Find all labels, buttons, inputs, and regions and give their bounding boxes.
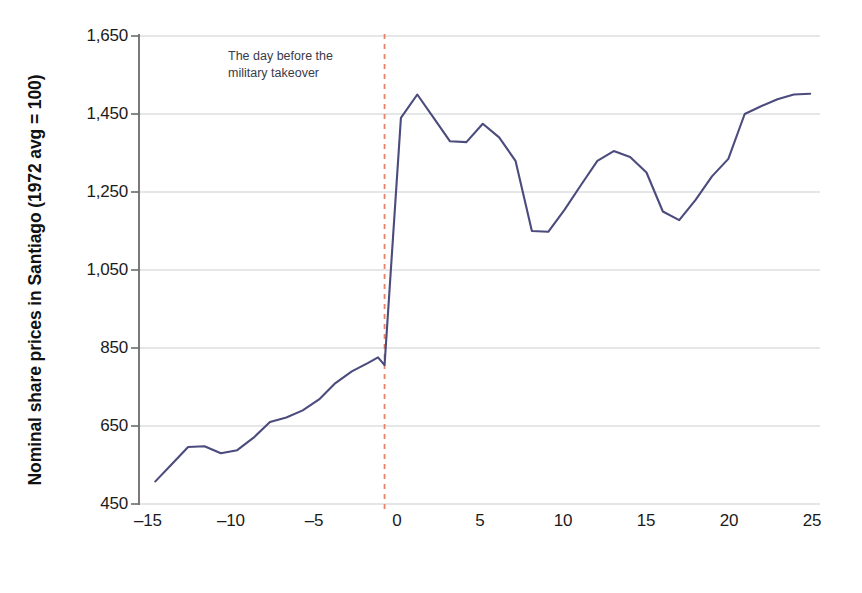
x-axis-tick-labels: –15 –10 –5 0 5 10 15 20 25	[0, 511, 862, 541]
x-tick-label: 15	[616, 511, 676, 531]
x-tick-label: 5	[450, 511, 510, 531]
x-tick-label: –15	[118, 511, 178, 531]
x-tick-label: –5	[284, 511, 344, 531]
plot-area	[0, 0, 862, 593]
data-series-line	[155, 94, 810, 482]
reference-line-annotation: The day before the military takeover	[228, 48, 378, 82]
x-tick-label: 0	[367, 511, 427, 531]
y-axis-ticks	[131, 36, 139, 504]
chart-figure: Nominal share prices in Santiago (1972 a…	[0, 0, 862, 593]
x-tick-label: 25	[782, 511, 842, 531]
annotation-line-2: military takeover	[228, 65, 378, 82]
gridlines	[139, 36, 820, 504]
x-tick-label: 20	[699, 511, 759, 531]
annotation-line-1: The day before the	[228, 48, 378, 65]
x-tick-label: 10	[533, 511, 593, 531]
x-tick-label: –10	[201, 511, 261, 531]
